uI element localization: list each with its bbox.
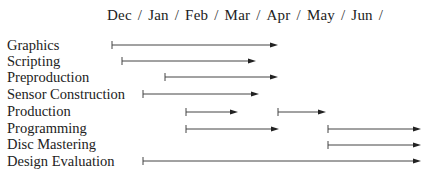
task-arrow: [143, 157, 421, 165]
task-arrow: [278, 108, 326, 116]
task-arrow: [186, 108, 238, 116]
task-arrow: [165, 73, 278, 81]
task-arrow: [328, 141, 421, 149]
task-arrow: [122, 57, 256, 65]
task-arrow: [328, 125, 421, 133]
task-arrow: [143, 90, 259, 98]
timeline-bars: [0, 0, 430, 176]
task-arrow: [112, 41, 278, 49]
task-arrow: [186, 125, 279, 133]
